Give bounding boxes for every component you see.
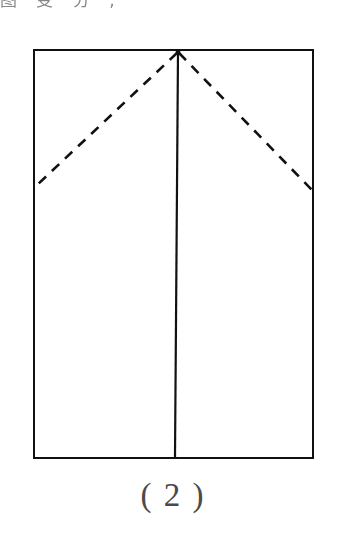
left-diagonal-crease [36, 53, 177, 186]
vertical-crease [175, 52, 178, 457]
rectangle-outline [34, 50, 313, 458]
apex-vertex [176, 50, 181, 55]
right-diagonal-crease [179, 53, 312, 190]
figure-canvas: 图 变 分 , ( 2 ) [0, 0, 346, 550]
figure-svg [0, 0, 346, 475]
geometry-figure [0, 0, 346, 475]
figure-caption: ( 2 ) [0, 478, 346, 512]
